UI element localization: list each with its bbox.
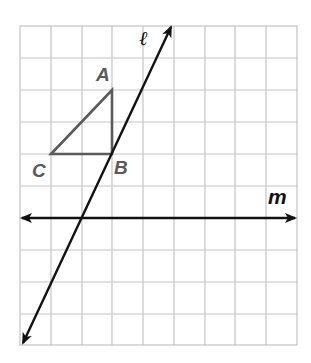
line-label-l: ℓ (139, 26, 148, 50)
vertex-label-b: B (114, 157, 128, 178)
grid (20, 26, 297, 345)
line-label-m: m (268, 185, 287, 208)
vertex-label-a: A (95, 64, 110, 85)
vertex-label-c: C (32, 160, 46, 181)
geometry-figure: A B C ℓ m (0, 0, 311, 363)
